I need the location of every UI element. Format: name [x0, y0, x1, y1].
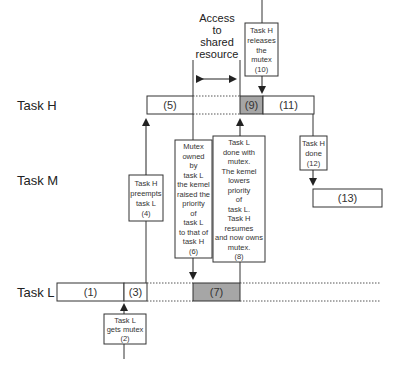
- note-6-line: task H: [183, 237, 204, 246]
- note-4-line: task L: [136, 199, 156, 208]
- access-label: Access to shared resource: [196, 12, 239, 60]
- access-line-3: shared: [200, 36, 234, 48]
- segment-13-label: (13): [338, 192, 358, 204]
- note-8-line: (8): [234, 252, 244, 261]
- note-8-line: Task H: [228, 214, 251, 223]
- segment-9-label: (9): [245, 99, 258, 111]
- note-6-line: to that of: [179, 228, 209, 237]
- note-8-line: done with: [223, 148, 255, 157]
- note-8-line: lowers: [228, 176, 250, 185]
- note-6-line: Mutex: [183, 142, 204, 151]
- note-10-line: mutex: [251, 55, 272, 64]
- note-4-line: Task H: [135, 179, 158, 188]
- segment-5-label: (5): [163, 99, 176, 111]
- note-2-line: gets mutex: [107, 325, 144, 334]
- note-8-line: priority: [228, 186, 251, 195]
- note-6-line: raised the: [177, 190, 210, 199]
- note-12-line: Task H: [302, 139, 325, 148]
- note-8-line: mutex.: [228, 157, 251, 166]
- note-2-line: (2): [120, 334, 130, 343]
- note-12-line: (12): [307, 159, 321, 168]
- access-line-4: resource: [196, 48, 239, 60]
- segment-7-label: (7): [210, 286, 223, 298]
- note-6-line: of: [190, 209, 197, 218]
- note-6-line: owned: [182, 152, 204, 161]
- note-8-line: Task L: [228, 138, 250, 147]
- note-8-line: and now owns: [215, 233, 263, 242]
- note-6-line: the kemel: [177, 180, 210, 189]
- note-8-line: of: [236, 195, 243, 204]
- note-4-line: (4): [141, 209, 151, 218]
- note-6-line: (6): [189, 247, 199, 256]
- note-8-line: resumes: [225, 224, 254, 233]
- access-line-1: Access: [199, 12, 235, 24]
- segment-11-label: (11): [279, 99, 298, 111]
- task-h-label: Task H: [17, 98, 57, 113]
- note-6-line: by: [190, 161, 198, 170]
- note-4-line: preempts: [130, 189, 162, 198]
- note-6-line: task L: [183, 218, 203, 227]
- segment-1-label: (1): [84, 286, 97, 298]
- note-6-line: task L: [183, 171, 203, 180]
- access-line-2: to: [212, 24, 221, 36]
- note-10-line: (10): [255, 65, 269, 74]
- note-12-line: done: [305, 149, 322, 158]
- note-2-line: Task L: [114, 316, 136, 325]
- note-6-line: priority: [182, 199, 205, 208]
- task-l-label: Task L: [17, 285, 55, 300]
- note-10-line: Task H: [250, 26, 273, 35]
- segment-3-label: (3): [129, 286, 142, 298]
- note-10-line: the: [256, 46, 266, 55]
- note-8-line: mutex.: [228, 243, 251, 252]
- note-8-line: The kemel: [221, 167, 256, 176]
- note-10-line: releases: [247, 36, 276, 45]
- task-m-label: Task M: [17, 173, 58, 188]
- note-8-line: task L.: [228, 205, 250, 214]
- priority-inversion-diagram: Task H Task M Task L Access to shared re…: [0, 0, 399, 374]
